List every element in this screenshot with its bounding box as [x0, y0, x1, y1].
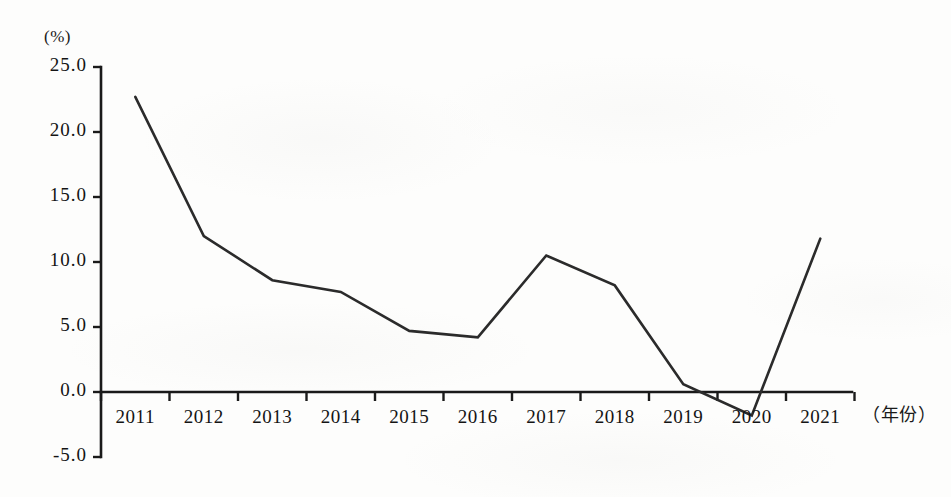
x-axis-tick-label: 2016 [443, 406, 513, 428]
x-axis-tick-label: 2014 [306, 406, 376, 428]
x-axis-ticks [101, 392, 855, 401]
y-axis-tick-label: 25.0 [21, 54, 87, 76]
y-axis-tick-label: 10.0 [21, 249, 87, 271]
x-axis-tick-label: 2018 [580, 406, 650, 428]
y-axis-tick-label: 15.0 [21, 184, 87, 206]
x-axis-tick-label: 2019 [648, 406, 718, 428]
x-axis-tick-label: 2015 [374, 406, 444, 428]
x-axis-tick-label: 2012 [169, 406, 239, 428]
y-axis-tick-label: 0.0 [21, 379, 87, 401]
x-axis-tick-label: 2013 [237, 406, 307, 428]
x-axis-tick-label: 2021 [785, 406, 855, 428]
x-axis-tick-label: 2020 [717, 406, 787, 428]
chart-page: (%) （年份） 25.020.015.010.05.00.0-5.0 2011… [0, 0, 951, 497]
data-series-line [135, 97, 820, 416]
x-axis-tick-label: 2017 [511, 406, 581, 428]
x-axis [101, 392, 855, 401]
y-axis-tick-label: 20.0 [21, 119, 87, 141]
y-axis-tick-label: 5.0 [21, 314, 87, 336]
y-axis-tick-label: -5.0 [21, 444, 87, 466]
x-axis-tick-label: 2011 [100, 406, 170, 428]
